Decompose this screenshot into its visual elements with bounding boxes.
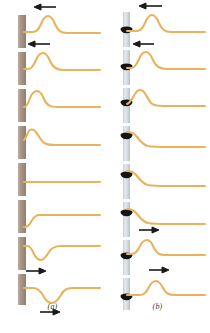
wave-reflection-figure: (a) bbox=[0, 0, 210, 333]
direction-arrows-free-end bbox=[105, 0, 210, 313]
direction-arrows-fixed-end bbox=[0, 0, 105, 313]
panel-fixed-end: (a) bbox=[0, 0, 105, 313]
arrow-left-a1 bbox=[28, 41, 50, 47]
arrow-left-b0 bbox=[139, 3, 162, 9]
arrow-right-b6 bbox=[139, 227, 159, 233]
arrow-left-b1 bbox=[133, 41, 154, 47]
arrow-right-b7 bbox=[149, 267, 169, 273]
arrow-left-a0 bbox=[34, 4, 56, 10]
arrow-right-a6 bbox=[26, 268, 46, 274]
panel-b-caption: (b) bbox=[105, 302, 210, 311]
panel-a-caption: (a) bbox=[0, 302, 105, 311]
panel-free-end: (b) bbox=[105, 0, 210, 313]
